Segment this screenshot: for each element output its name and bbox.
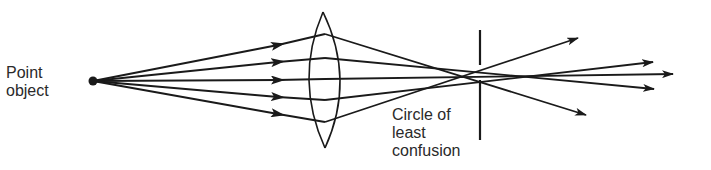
point-object-dot bbox=[89, 77, 98, 86]
spherical-aberration-diagram bbox=[0, 0, 711, 170]
circle-label-line2: least bbox=[392, 124, 461, 142]
refracted-rays bbox=[325, 34, 673, 122]
circle-of-least-confusion-label: Circle of least confusion bbox=[392, 106, 461, 160]
point-object-label-line1: Point bbox=[6, 64, 49, 82]
point-object-label-line2: object bbox=[6, 82, 49, 100]
incident-rays bbox=[93, 34, 325, 122]
circle-label-line3: confusion bbox=[392, 142, 461, 160]
circle-label-line1: Circle of bbox=[392, 106, 461, 124]
point-object-label: Point object bbox=[6, 64, 49, 100]
